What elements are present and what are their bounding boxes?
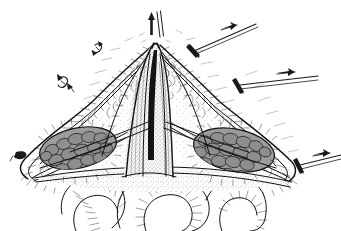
surgical-illustration xyxy=(0,0,341,231)
figure-container xyxy=(0,0,341,231)
